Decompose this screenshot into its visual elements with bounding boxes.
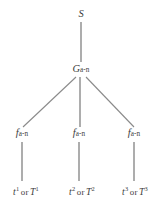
- node-f-1: fa-n: [16, 128, 28, 139]
- node-f-3-subscript: a-n: [131, 130, 140, 138]
- leaf-1-conjunction: or: [19, 187, 30, 197]
- tree-diagram: S Ga-n fa-n fa-n fa-n t1orT1 t2orT2 t3or…: [0, 0, 164, 199]
- node-f-2-subscript: a-n: [76, 130, 85, 138]
- leaf-2-upper-superscript: 2: [92, 185, 95, 192]
- node-f-2: fa-n: [73, 128, 85, 139]
- leaf-2: t2orT2: [69, 186, 95, 197]
- node-root-s: S: [78, 9, 83, 20]
- leaf-2-conjunction: or: [75, 187, 86, 197]
- edge-layer: [0, 0, 164, 199]
- edge-g-to-f-1: [23, 77, 76, 127]
- edge-g-to-f-3: [86, 77, 134, 127]
- node-f-1-subscript: a-n: [19, 130, 28, 138]
- leaf-3-conjunction: or: [128, 187, 139, 197]
- leaf-3-upper-superscript: 3: [145, 185, 148, 192]
- leaf-1-upper-superscript: 1: [36, 185, 39, 192]
- node-g-subscript: a-n: [80, 66, 89, 74]
- node-g: Ga-n: [72, 64, 89, 75]
- leaf-1: t1orT1: [13, 186, 39, 197]
- node-f-3: fa-n: [128, 128, 140, 139]
- node-g-base: G: [72, 63, 80, 74]
- leaf-3: t3orT3: [122, 186, 148, 197]
